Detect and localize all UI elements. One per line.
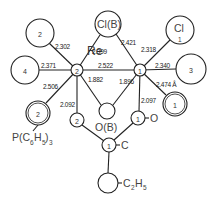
o-bridge-label: O(B) [95,121,117,133]
svg-text:1.882: 1.882 [88,76,103,83]
svg-text:2.506: 2.506 [43,83,58,90]
svg-text:2: 2 [38,31,42,38]
atom-o-small-left: 2 [70,113,84,127]
svg-text:3: 3 [189,67,193,74]
svg-text:2.474 Å: 2.474 Å [156,80,177,88]
svg-text:P(C: P(C [12,131,31,143]
svg-text:2.302: 2.302 [55,43,70,50]
svg-text:2.421: 2.421 [121,39,136,46]
phosphine-label: P(C 6 H 5 ) 3 [12,131,53,146]
atom-phosphine: 2 [26,101,50,125]
atom-re1: 1 [134,64,146,76]
svg-text:H: H [34,131,42,143]
svg-text:1.896: 1.896 [119,78,134,85]
svg-text:2.097: 2.097 [141,97,156,104]
svg-text:2: 2 [36,111,40,118]
atom-o-small-right: 1 [131,111,145,125]
svg-text:2.399: 2.399 [92,48,107,55]
svg-text:4: 4 [23,68,27,75]
atom-ethyl [98,173,118,193]
atom-re2: 2 [71,64,83,76]
carbon-label: C [121,139,129,151]
svg-text:5: 5 [143,184,147,191]
svg-text:2.522: 2.522 [98,62,113,69]
bond-re1-ob [113,70,140,105]
svg-text:3: 3 [49,139,53,146]
atom-ligand-right: 3 [176,54,206,84]
cl-terminal-index: 1 [178,36,182,43]
cl-terminal-label: Cl [174,22,184,34]
svg-text:): ) [45,131,49,143]
bond-length-labels: 2.302 2.371 2.506 2.399 2.522 1.882 1.89… [41,39,177,108]
svg-text:C: C [123,177,131,189]
svg-text:1: 1 [173,102,177,109]
ethyl-label: C 2 H 5 [123,177,147,191]
svg-text:2: 2 [75,118,79,125]
svg-text:2.340: 2.340 [155,62,170,69]
svg-text:2.371: 2.371 [41,62,56,69]
o-right-label: O [150,112,158,124]
diagram-canvas: 2 4 2 3 1 2 1 2 1 1 [0,0,213,201]
svg-text:1: 1 [136,116,140,123]
atom-ligand-top-left: 2 [26,19,54,47]
svg-text:H: H [135,177,143,189]
atom-ligand-lower-right: 1 [163,92,187,116]
svg-text:2: 2 [75,68,79,75]
molecule-diagram: 2 4 2 3 1 2 1 2 1 1 [0,0,213,201]
svg-text:2.318: 2.318 [141,46,156,53]
svg-text:1: 1 [107,143,111,150]
bond-c-ethyl [108,152,109,173]
atom-carbon: 1 [102,138,116,152]
atom-o-bridge [99,103,115,119]
svg-text:2.092: 2.092 [60,101,75,108]
cl-bridge-label: Cl(B) [97,18,121,30]
atom-ligand-left: 4 [11,56,39,84]
svg-text:1: 1 [138,68,142,75]
